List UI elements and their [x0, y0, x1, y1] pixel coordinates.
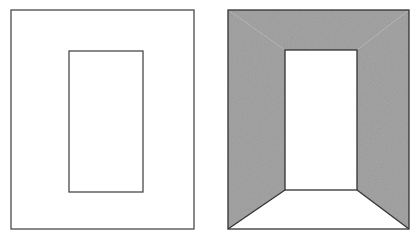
panel-left [11, 10, 194, 229]
right-back-wall-region [285, 50, 357, 190]
figure-root [0, 0, 418, 240]
panel-right [228, 10, 409, 229]
figure-canvas [0, 0, 418, 240]
left-inner-rectangle [69, 51, 143, 192]
